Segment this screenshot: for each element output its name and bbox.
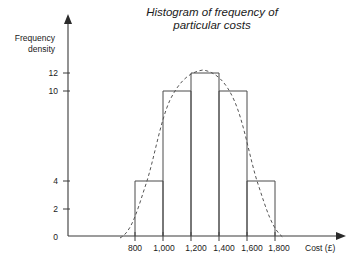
y-axis-label-line-2: density — [28, 44, 56, 54]
x-axis-label: Cost (£) — [305, 243, 335, 253]
histogram-figure: Histogram of frequency of particular cos… — [0, 0, 350, 262]
histogram-bar-1000-1200 — [163, 91, 191, 236]
x-tick-label-1400: 1,400 — [213, 243, 235, 253]
y-tick-label-12: 12 — [49, 68, 59, 78]
x-tick-label-1000: 1,000 — [153, 243, 175, 253]
chart-canvas: Histogram of frequency of particular cos… — [0, 0, 350, 262]
normal-distribution-curve — [120, 70, 284, 238]
chart-title-line-1: Histogram of frequency of — [146, 6, 279, 18]
chart-title-line-2: particular costs — [172, 19, 251, 31]
histogram-bar-800-1000 — [135, 181, 163, 236]
histogram-bar-1600-1800 — [247, 181, 275, 236]
x-tick-label-1600: 1,600 — [241, 243, 263, 253]
y-tick-label-10: 10 — [49, 86, 59, 96]
x-tick-label-1800: 1,800 — [268, 243, 290, 253]
x-tick-label-800: 800 — [128, 243, 142, 253]
y-tick-label-2: 2 — [53, 204, 58, 214]
y-axis-arrow-icon — [64, 14, 72, 24]
y-axis-ticks: 12 10 4 2 0 — [49, 68, 70, 242]
x-axis-arrow-icon — [336, 232, 346, 240]
y-axis-label-line-1: Frequency — [15, 33, 56, 43]
x-axis-tick-labels: 800 1,000 1,200 1,400 1,600 1,800 — [128, 243, 290, 253]
histogram-bar-1400-1600 — [219, 91, 247, 236]
histogram-bar-1200-1400 — [191, 73, 219, 236]
y-tick-label-0: 0 — [53, 232, 58, 242]
y-axis — [64, 14, 72, 236]
x-tick-label-1200: 1,200 — [185, 243, 207, 253]
y-tick-label-4: 4 — [53, 176, 58, 186]
histogram-bars — [135, 73, 275, 236]
x-axis — [68, 232, 346, 240]
